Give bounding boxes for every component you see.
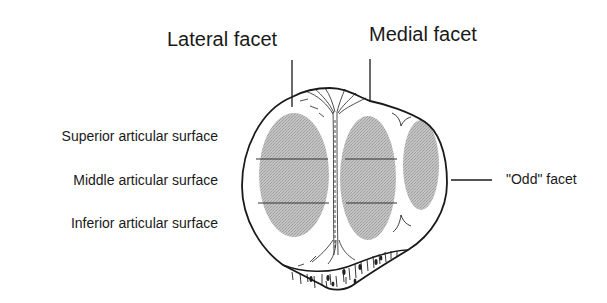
middle-articular-surface-label: Middle articular surface bbox=[73, 173, 218, 187]
medial-facet-surface bbox=[340, 116, 396, 240]
patella-diagram: Lateral facet Medial facet Superior arti… bbox=[0, 0, 607, 303]
lateral-facet-label: Lateral facet bbox=[167, 29, 277, 49]
patella-illustration bbox=[0, 0, 607, 303]
medial-facet-label: Medial facet bbox=[369, 24, 477, 44]
superior-articular-surface-label: Superior articular surface bbox=[62, 129, 218, 143]
lateral-facet-surface bbox=[259, 113, 329, 237]
odd-facet-label: "Odd" facet bbox=[506, 172, 577, 186]
inferior-articular-surface-label: Inferior articular surface bbox=[71, 216, 218, 230]
odd-facet-surface bbox=[403, 120, 439, 210]
